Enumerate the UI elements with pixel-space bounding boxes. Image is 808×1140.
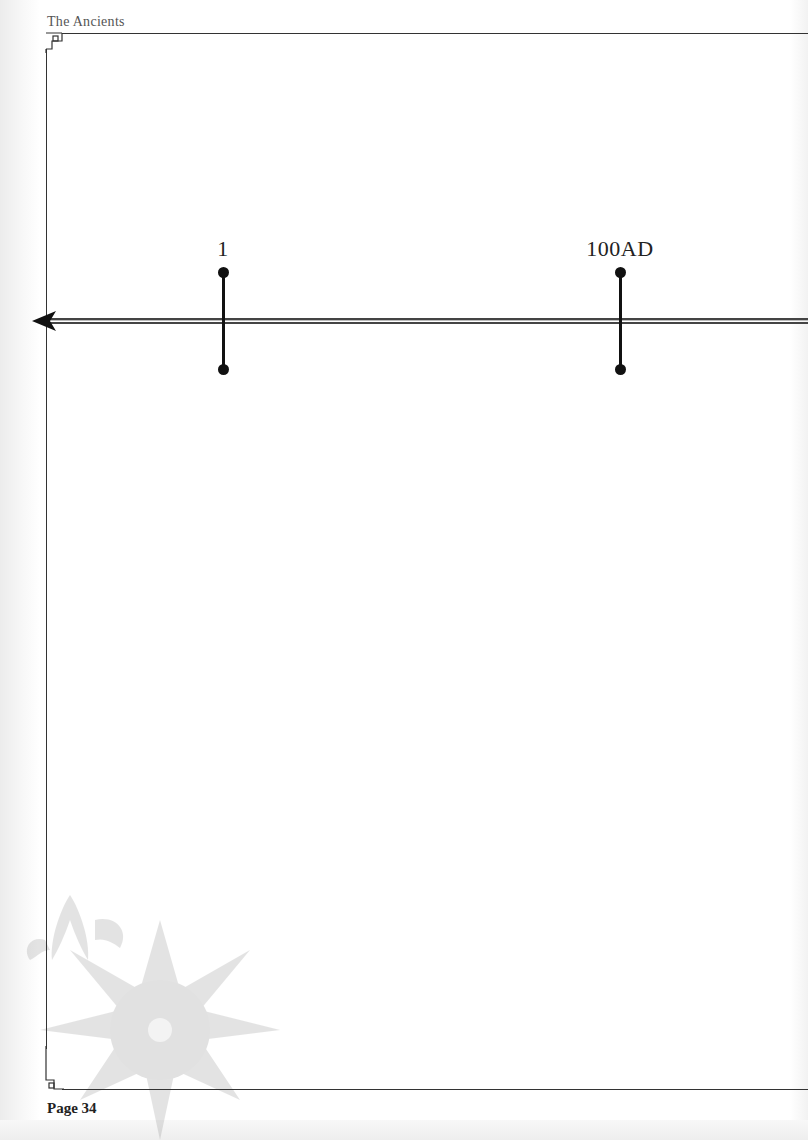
marker-stem (619, 272, 622, 370)
running-header: The Ancients (47, 14, 125, 30)
timeline-label-100ad: 100AD (586, 236, 653, 262)
marker-dot-bottom (218, 364, 229, 375)
marker-dot-top (615, 267, 626, 278)
marker-stem (222, 272, 225, 370)
page-number: Page 34 (47, 1100, 97, 1117)
timeline-arrow-left-icon (32, 309, 62, 333)
timeline-label-1: 1 (217, 236, 229, 262)
timeline-axis (50, 318, 808, 324)
marker-dot-top (218, 267, 229, 278)
marker-dot-bottom (615, 364, 626, 375)
frame-top-border (62, 33, 808, 34)
frame-corner-top-icon (44, 31, 66, 53)
